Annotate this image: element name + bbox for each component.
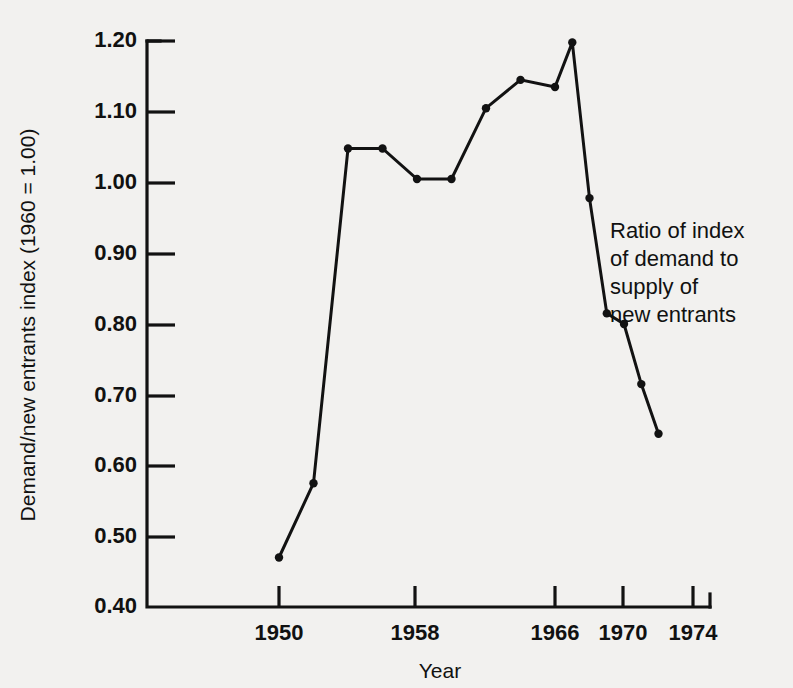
- x-tick-label-1: 1958: [391, 620, 440, 645]
- data-point: [413, 175, 421, 183]
- y-tick-label-0: 0.40: [94, 593, 137, 618]
- annotation-line-0: Ratio of index: [610, 218, 745, 243]
- y-axis-ticks: [147, 41, 175, 537]
- x-axis-tick-labels: 1950 1958 1966 1970 1974: [255, 620, 719, 645]
- data-point: [568, 38, 576, 46]
- series-annotation: Ratio of index of demand to supply of ne…: [610, 218, 745, 327]
- x-tick-label-0: 1950: [255, 620, 304, 645]
- data-point: [309, 479, 317, 487]
- data-series-group: [275, 38, 663, 562]
- x-tick-label-2: 1966: [531, 620, 580, 645]
- x-tick-label-3: 1970: [599, 620, 648, 645]
- y-tick-label-2: 0.60: [94, 452, 137, 477]
- y-tick-label-6: 1.00: [94, 169, 137, 194]
- y-axis-tick-labels: 1.20 1.10 1.00 0.90 0.80 0.70 0.60 0.50 …: [94, 27, 137, 618]
- data-point: [482, 104, 490, 112]
- y-tick-label-5: 0.90: [94, 240, 137, 265]
- annotation-line-3: new entrants: [610, 302, 736, 327]
- data-point: [344, 144, 352, 152]
- y-tick-label-7: 1.10: [94, 98, 137, 123]
- data-point: [275, 553, 283, 561]
- data-point: [447, 175, 455, 183]
- x-axis-ticks: [279, 586, 693, 607]
- series-line: [279, 42, 659, 557]
- y-axis-title: Demand/new entrants index (1960 = 1.00): [16, 129, 39, 522]
- data-point: [654, 430, 662, 438]
- data-point: [551, 83, 559, 91]
- x-axis-title: Year: [419, 659, 461, 682]
- data-point: [637, 380, 645, 388]
- data-point: [585, 194, 593, 202]
- y-tick-label-1: 0.50: [94, 523, 137, 548]
- y-tick-label-3: 0.70: [94, 382, 137, 407]
- x-tick-label-4: 1974: [669, 620, 719, 645]
- data-point: [516, 76, 524, 84]
- y-tick-label-8: 1.20: [94, 27, 137, 52]
- data-point: [378, 144, 386, 152]
- annotation-line-2: supply of: [610, 274, 699, 299]
- chart-figure: 1.20 1.10 1.00 0.90 0.80 0.70 0.60 0.50 …: [0, 0, 793, 688]
- annotation-line-1: of demand to: [610, 246, 738, 271]
- y-tick-label-4: 0.80: [94, 311, 137, 336]
- line-chart-canvas: 1.20 1.10 1.00 0.90 0.80 0.70 0.60 0.50 …: [0, 0, 793, 688]
